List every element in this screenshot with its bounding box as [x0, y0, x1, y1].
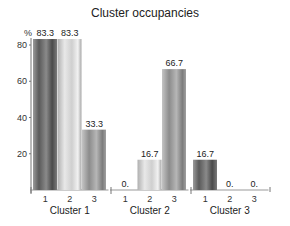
bar-chart: %20406080 83.3183.3233.33Cluster 10.116.… [0, 0, 290, 226]
bar-value-label: 0. [250, 179, 258, 189]
y-tick-label: 40 [17, 113, 27, 123]
x-tick-label: 1 [123, 194, 128, 204]
bar [33, 39, 57, 190]
bar [138, 160, 162, 190]
bar-value-label: 0. [121, 179, 129, 189]
x-tick-label: 3 [252, 194, 257, 204]
bar-value-label: 16.7 [141, 149, 159, 159]
bar-value-label: 16.7 [196, 149, 214, 159]
bar [58, 39, 82, 190]
cluster-label: Cluster 3 [210, 205, 250, 216]
bar-value-label: 0. [226, 179, 234, 189]
x-tick-label: 2 [227, 194, 232, 204]
x-tick-label: 2 [147, 194, 152, 204]
bar-value-label: 66.7 [165, 58, 183, 68]
x-tick-label: 1 [43, 194, 48, 204]
bar [162, 69, 186, 190]
bar [193, 160, 217, 190]
x-tick-label: 2 [67, 194, 72, 204]
cluster-label: Cluster 2 [130, 205, 170, 216]
x-tick-label: 1 [203, 194, 208, 204]
y-tick-label: 60 [17, 76, 27, 86]
bar-value-label: 33.3 [85, 119, 103, 129]
cluster-label: Cluster 1 [50, 205, 90, 216]
bars [33, 39, 217, 190]
y-axis-unit: % [24, 28, 32, 38]
y-tick-label: 20 [17, 149, 27, 159]
x-tick-label: 3 [172, 194, 177, 204]
x-tick-label: 3 [92, 194, 97, 204]
bar-value-label: 83.3 [36, 28, 54, 38]
y-tick-label: 80 [17, 40, 27, 50]
bar [82, 130, 106, 190]
bar-value-label: 83.3 [61, 28, 79, 38]
